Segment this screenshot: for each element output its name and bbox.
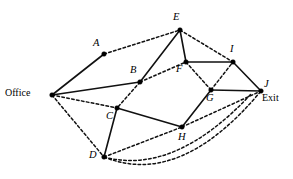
edge-g-j (211, 90, 261, 91)
edge-b-c (117, 82, 140, 108)
edge-b-e (140, 30, 180, 82)
node-label-e: E (173, 12, 179, 23)
node-dot-d[interactable] (102, 155, 107, 160)
node-dot-office[interactable] (50, 93, 55, 98)
edge-c-h (117, 108, 182, 127)
edge-d-j (104, 93, 252, 161)
node-dot-e[interactable] (178, 28, 183, 33)
node-label-a: A (93, 38, 99, 49)
node-label-h: H (178, 132, 186, 143)
node-label-exit: Exit (262, 93, 279, 103)
node-label-b: B (130, 65, 136, 76)
edge-a-e (104, 30, 180, 54)
node-label-f: F (176, 64, 182, 75)
node-label-c: C (106, 111, 113, 122)
edge-e-f (180, 30, 186, 62)
node-label-d: D (89, 150, 97, 161)
node-dot-h[interactable] (180, 125, 185, 130)
node-dot-i[interactable] (231, 60, 236, 65)
edge-f-g (186, 62, 211, 90)
node-label-office: Office (5, 88, 30, 98)
graph-canvas (0, 0, 293, 179)
node-dot-f[interactable] (184, 60, 189, 65)
node-label-g: G (206, 93, 214, 104)
edge-e-i (180, 30, 233, 62)
node-dot-b[interactable] (138, 80, 143, 85)
edge-g-i (211, 62, 233, 90)
graph-diagram: OfficeABCDEFGHIJExit (0, 0, 293, 179)
node-dot-a[interactable] (102, 52, 107, 57)
node-label-j: J (264, 79, 269, 90)
node-label-i: I (230, 44, 234, 55)
node-dot-c[interactable] (115, 106, 120, 111)
edge-i-j (233, 62, 261, 91)
